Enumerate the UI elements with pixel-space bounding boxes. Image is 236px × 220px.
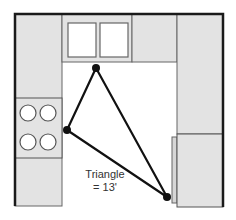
sink-vertex-dot [92,64,100,72]
fridge-vertex-dot [163,193,171,201]
refrigerator [172,134,223,207]
window-right [100,23,128,57]
burner-icon [20,134,36,150]
right-counter [177,14,223,134]
stove [15,98,62,158]
burner-icon [40,134,56,150]
sink-counter [62,14,132,62]
top-right-counter [132,14,177,62]
triangle-label-line1: Triangle [70,168,140,181]
window-left [68,23,96,57]
stove-vertex-dot [63,126,71,134]
fridge-door [172,137,177,203]
burner-icon [20,105,36,121]
burner-icon [40,105,56,121]
triangle-label: Triangle = 13' [70,168,140,194]
triangle-label-line2: = 13' [70,181,140,194]
